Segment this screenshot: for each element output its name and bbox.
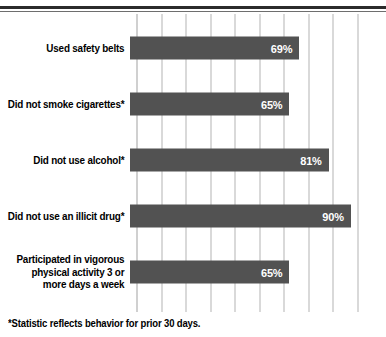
bar-zone: 65% — [130, 244, 380, 300]
bar[interactable]: 65% — [130, 261, 289, 284]
chart-row: Did not smoke cigarettes*65% — [0, 76, 386, 132]
bar-value-label: 65% — [261, 98, 289, 110]
chart-row: Participated in vigorousphysical activit… — [0, 244, 386, 300]
category-label: Participated in vigorousphysical activit… — [8, 253, 130, 291]
category-label: Did not use alcohol* — [8, 154, 130, 167]
category-label-line: Did not use alcohol* — [8, 154, 125, 167]
bar-rows: Used safety belts69%Did not smoke cigare… — [0, 14, 386, 312]
top-rule-thick — [0, 6, 386, 9]
bar[interactable]: 90% — [130, 205, 351, 228]
bar-chart-figure: Used safety belts69%Did not smoke cigare… — [0, 0, 386, 337]
category-label: Did not smoke cigarettes* — [8, 98, 130, 111]
bar[interactable]: 81% — [130, 149, 329, 172]
category-label-line: more days a week — [8, 278, 125, 291]
category-label-line: Did not use an illicit drug* — [8, 210, 125, 223]
bar-value-label: 90% — [322, 210, 350, 222]
top-rule-thin — [0, 11, 386, 12]
bar-value-label: 81% — [300, 154, 328, 166]
category-label-line: Participated in vigorous — [8, 253, 125, 266]
bar-zone: 65% — [130, 76, 380, 132]
chart-row: Did not use alcohol*81% — [0, 132, 386, 188]
chart-row: Did not use an illicit drug*90% — [0, 188, 386, 244]
bar[interactable]: 69% — [130, 37, 299, 60]
category-label-line: Did not smoke cigarettes* — [8, 98, 125, 111]
category-label: Did not use an illicit drug* — [8, 210, 130, 223]
category-label: Used safety belts — [8, 42, 130, 55]
bar-zone: 81% — [130, 132, 380, 188]
bar-value-label: 69% — [271, 42, 299, 54]
bar-value-label: 65% — [261, 266, 289, 278]
bar[interactable]: 65% — [130, 93, 289, 116]
bar-zone: 90% — [130, 188, 380, 244]
bar-zone: 69% — [130, 20, 380, 76]
chart-footnote: *Statistic reflects behavior for prior 3… — [8, 318, 200, 329]
category-label-line: physical activity 3 or — [8, 266, 125, 279]
category-label-line: Used safety belts — [8, 42, 125, 55]
chart-row: Used safety belts69% — [0, 20, 386, 76]
